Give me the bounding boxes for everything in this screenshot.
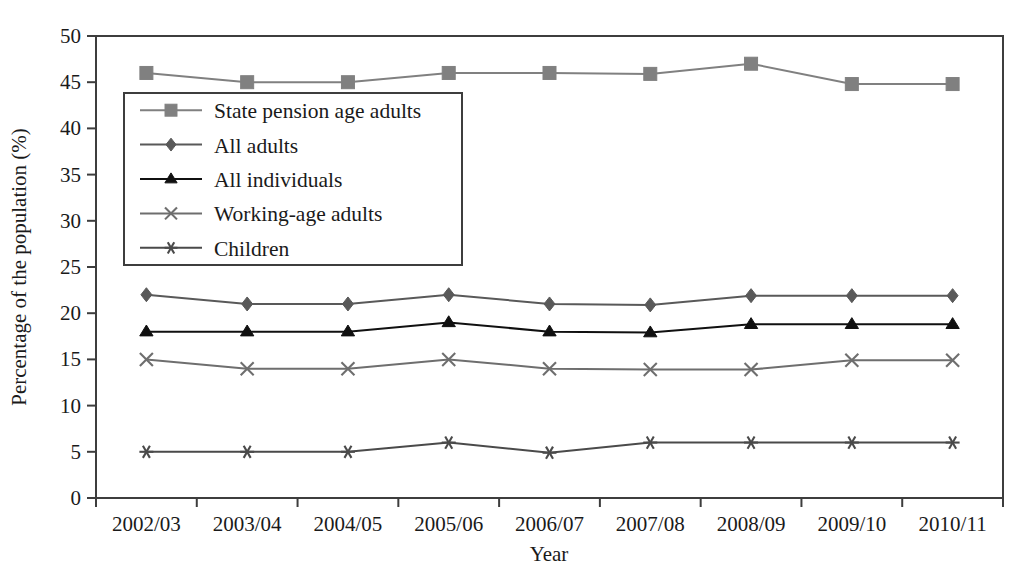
series-children bbox=[139, 436, 959, 458]
legend-label: Working-age adults bbox=[214, 202, 382, 226]
data-point-square-marker bbox=[341, 76, 354, 89]
legend-label: State pension age adults bbox=[214, 99, 421, 123]
data-point-square-marker bbox=[140, 66, 153, 79]
data-point-asterisk-marker bbox=[845, 436, 859, 448]
data-point-asterisk-marker bbox=[643, 436, 657, 448]
data-point-square-marker bbox=[745, 57, 758, 70]
data-point-diamond-marker bbox=[645, 298, 656, 312]
y-tick-label: 30 bbox=[60, 209, 81, 233]
data-point-diamond-marker bbox=[947, 289, 958, 303]
x-tick-label: 2007/08 bbox=[616, 512, 685, 536]
y-tick-label: 40 bbox=[60, 116, 81, 140]
data-point-square-marker bbox=[644, 67, 657, 80]
y-tick-label: 10 bbox=[60, 394, 81, 418]
x-tick-label: 2005/06 bbox=[414, 512, 483, 536]
y-tick-label: 15 bbox=[60, 347, 81, 371]
x-tick-label: 2006/07 bbox=[515, 512, 584, 536]
data-point-triangle-marker bbox=[140, 325, 153, 336]
y-tick-label: 25 bbox=[60, 255, 81, 279]
data-point-asterisk-marker bbox=[442, 436, 456, 448]
data-point-asterisk-marker bbox=[744, 436, 758, 448]
data-point-square-marker bbox=[543, 66, 556, 79]
data-point-triangle-marker bbox=[442, 316, 455, 327]
y-tick-label: 35 bbox=[60, 163, 81, 187]
series-working-age-adults bbox=[140, 353, 959, 376]
data-point-asterisk-marker bbox=[946, 436, 960, 448]
legend-label: All adults bbox=[214, 134, 298, 158]
data-point-diamond-marker bbox=[242, 297, 253, 311]
data-point-square-marker bbox=[946, 78, 959, 91]
x-tick-label: 2002/03 bbox=[112, 512, 181, 536]
data-point-triangle-marker bbox=[946, 318, 959, 329]
y-tick-label: 20 bbox=[60, 301, 81, 325]
data-point-diamond-marker bbox=[846, 289, 857, 303]
x-tick-label: 2009/10 bbox=[817, 512, 886, 536]
y-tick-label: 5 bbox=[71, 440, 82, 464]
series-all-individuals bbox=[140, 316, 960, 337]
data-point-square-marker bbox=[845, 78, 858, 91]
series-state-pension-age-adults bbox=[140, 57, 959, 90]
data-point-diamond-marker bbox=[544, 297, 555, 311]
x-tick-label: 2008/09 bbox=[717, 512, 786, 536]
data-point-diamond-marker bbox=[746, 289, 757, 303]
y-tick-label: 50 bbox=[60, 24, 81, 48]
data-point-square-marker bbox=[442, 66, 455, 79]
data-point-diamond-marker bbox=[443, 288, 454, 302]
y-axis: 05101520253035404550 bbox=[60, 24, 96, 510]
x-axis-title: Year bbox=[530, 542, 569, 566]
x-tick-label: 2010/11 bbox=[919, 512, 987, 536]
data-point-asterisk-marker bbox=[543, 447, 557, 459]
legend-label: All individuals bbox=[214, 168, 342, 192]
y-tick-label: 0 bbox=[71, 486, 82, 510]
data-point-diamond-marker bbox=[342, 297, 353, 311]
y-axis-title: Percentage of the population (%) bbox=[7, 128, 31, 406]
x-tick-label: 2003/04 bbox=[213, 512, 282, 536]
data-point-asterisk-marker bbox=[139, 446, 153, 458]
data-point-asterisk-marker bbox=[341, 446, 355, 458]
legend: State pension age adultsAll adultsAll in… bbox=[124, 93, 462, 265]
data-point-diamond-marker bbox=[141, 288, 152, 302]
data-point-triangle-marker bbox=[241, 325, 254, 336]
legend-label: Children bbox=[214, 237, 289, 261]
data-point-asterisk-marker bbox=[240, 446, 254, 458]
x-axis: 2002/032003/042004/052005/062006/072007/… bbox=[96, 498, 1003, 536]
y-tick-label: 45 bbox=[60, 70, 81, 94]
data-point-square-marker bbox=[241, 76, 254, 89]
data-point-triangle-marker bbox=[845, 318, 858, 329]
line-chart-canvas: 05101520253035404550 2002/032003/042004/… bbox=[0, 0, 1025, 585]
data-point-square-marker bbox=[165, 104, 177, 116]
x-tick-label: 2004/05 bbox=[314, 512, 383, 536]
series-all-adults bbox=[141, 288, 958, 312]
chart-figure: 05101520253035404550 2002/032003/042004/… bbox=[0, 0, 1025, 585]
data-point-triangle-marker bbox=[744, 318, 757, 329]
